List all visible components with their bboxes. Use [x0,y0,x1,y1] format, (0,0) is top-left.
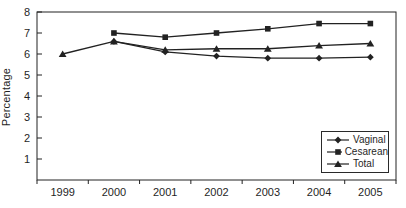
legend-item-total: Total [326,158,388,170]
y-tick-label-2: 2 [24,132,30,144]
y-tick-label-8: 8 [24,6,30,18]
y-tick-label-4: 4 [24,90,30,102]
x-tick-label-2004: 2004 [307,186,331,198]
chart-figure: 123456781999200020012002200320042005 Per… [0,0,406,208]
legend-item-cesarean: Cesarean [326,146,388,158]
marker-vaginal-2002 [213,53,220,60]
x-tick-label-2002: 2002 [204,186,228,198]
x-tick-label-2000: 2000 [102,186,126,198]
legend-square-icon [326,147,342,157]
y-tick-label-6: 6 [24,48,30,60]
series-line-vaginal [114,41,370,58]
legend-triangle-icon [326,159,350,169]
x-tick-label-1999: 1999 [50,186,74,198]
legend-glyph-cesarean [335,149,341,155]
y-tick-label-1: 1 [24,153,30,165]
marker-cesarean-2003 [265,26,271,32]
marker-cesarean-2000 [111,30,117,36]
y-tick-label-7: 7 [24,27,30,39]
series-line-cesarean [114,24,370,38]
y-axis-title: Percentage [0,62,12,132]
legend-label-vaginal: Vaginal [353,134,386,146]
y-tick-label-5: 5 [24,69,30,81]
marker-cesarean-2005 [368,21,374,27]
marker-cesarean-2002 [214,30,220,36]
legend-item-vaginal: Vaginal [326,134,388,146]
marker-cesarean-2004 [316,21,322,27]
legend-glyph-vaginal [335,137,342,144]
legend: VaginalCesareanTotal [321,131,389,173]
marker-vaginal-2003 [264,55,271,62]
legend-diamond-icon [326,135,350,145]
line-chart: 123456781999200020012002200320042005 [0,0,406,208]
marker-cesarean-2001 [162,34,168,40]
marker-vaginal-2004 [316,55,323,62]
x-tick-label-2001: 2001 [153,186,177,198]
marker-vaginal-2005 [367,54,374,61]
legend-label-total: Total [353,158,374,170]
x-tick-label-2003: 2003 [256,186,280,198]
y-tick-label-3: 3 [24,111,30,123]
legend-label-cesarean: Cesarean [345,146,388,158]
x-tick-label-2005: 2005 [358,186,382,198]
